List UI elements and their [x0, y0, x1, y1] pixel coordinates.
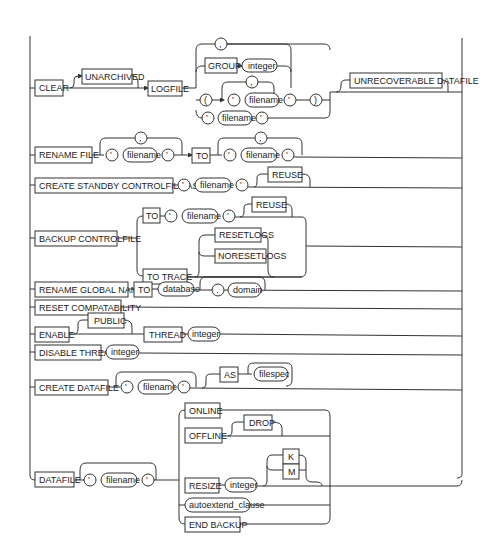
svg-text:GROUP: GROUP — [208, 61, 241, 71]
svg-text:TO: TO — [138, 285, 150, 295]
svg-text:K: K — [288, 452, 294, 462]
svg-text:': ' — [125, 382, 127, 392]
syntax-diagram: CLEAR UNARCHIVED LOGFILE , GROUP integer… — [0, 0, 488, 558]
svg-text:RESETLOGS: RESETLOGS — [219, 230, 274, 240]
svg-text:database: database — [163, 284, 200, 294]
svg-text:filename: filename — [143, 382, 177, 392]
rename-file-branch: RENAME FILE , ' filename ' TO , ' filena… — [30, 132, 462, 163]
svg-text:TO: TO — [146, 211, 158, 221]
left-rail — [30, 36, 35, 480]
svg-text:': ' — [182, 180, 184, 190]
svg-text:': ' — [110, 150, 112, 160]
clear-branch: CLEAR UNARCHIVED LOGFILE , GROUP integer… — [30, 38, 479, 125]
svg-text:': ' — [232, 95, 234, 105]
svg-text:(: ( — [204, 95, 207, 105]
svg-text:AS: AS — [224, 370, 236, 380]
svg-text:TO: TO — [196, 151, 208, 161]
svg-text:,: , — [139, 133, 142, 143]
svg-text:filename: filename — [127, 150, 161, 160]
svg-text:domain: domain — [233, 285, 263, 295]
svg-text:DISABLE THREAD: DISABLE THREAD — [39, 348, 117, 358]
datafile-branch: DATAFILE ' filename ' ONLINE OFFLINE DRO… — [35, 403, 462, 532]
svg-text:filename: filename — [106, 475, 140, 485]
svg-text:': ' — [146, 475, 148, 485]
svg-text:integer: integer — [111, 347, 139, 357]
svg-text:': ' — [240, 180, 242, 190]
svg-text:,: , — [259, 133, 262, 143]
svg-text:THREAD: THREAD — [149, 330, 187, 340]
create-standby-branch: CREATE STANDBY CONTROLFILE AS ' filename… — [30, 167, 462, 193]
svg-text:integer: integer — [192, 329, 220, 339]
svg-text:CREATE STANDBY CONTROLFILE AS: CREATE STANDBY CONTROLFILE AS — [39, 181, 199, 191]
svg-text:ENABLE: ENABLE — [39, 330, 75, 340]
svg-text:': ' — [260, 113, 262, 123]
svg-text:filename: filename — [187, 211, 221, 221]
svg-text:RENAME GLOBAL NAME: RENAME GLOBAL NAME — [39, 285, 144, 295]
svg-text:': ' — [206, 113, 208, 123]
svg-text:REUSE: REUSE — [256, 200, 287, 210]
svg-text:filename: filename — [249, 95, 283, 105]
svg-text:TO TRACE: TO TRACE — [147, 272, 192, 282]
right-rail — [457, 38, 462, 478]
svg-text:PUBLIC: PUBLIC — [94, 316, 127, 326]
svg-text:integer: integer — [248, 61, 276, 71]
disable-thread-branch: DISABLE THREAD integer — [30, 345, 462, 360]
svg-text:BACKUP CONTROLFILE: BACKUP CONTROLFILE — [39, 234, 141, 244]
svg-text:RESET COMPATABILITY: RESET COMPATABILITY — [39, 303, 141, 313]
svg-text:filespec: filespec — [259, 369, 290, 379]
create-datafile-branch: CREATE DATAFILE ' filename ' AS filespec — [30, 363, 462, 395]
svg-text:RENAME FILE: RENAME FILE — [39, 150, 99, 160]
svg-text:filename: filename — [222, 113, 256, 123]
svg-text:integer: integer — [230, 480, 258, 490]
svg-text:NORESETLOGS: NORESETLOGS — [218, 251, 287, 261]
svg-text:M: M — [288, 467, 296, 477]
svg-text:filename: filename — [246, 150, 280, 160]
svg-text:': ' — [169, 211, 171, 221]
svg-text:,: , — [250, 77, 253, 87]
svg-text:END BACKUP: END BACKUP — [189, 520, 248, 530]
svg-text:DROP: DROP — [249, 418, 275, 428]
svg-text:': ' — [182, 382, 184, 392]
svg-text:UNRECOVERABLE DATAFILE: UNRECOVERABLE DATAFILE — [354, 76, 479, 86]
backup-controlfile-branch: BACKUP CONTROLFILE TO ' filename ' REUSE… — [30, 197, 462, 284]
svg-text:': ' — [227, 211, 229, 221]
svg-text:,: , — [219, 39, 222, 49]
svg-text:CREATE DATAFILE: CREATE DATAFILE — [39, 383, 119, 393]
svg-text:': ' — [166, 150, 168, 160]
svg-text:': ' — [228, 150, 230, 160]
svg-text:OFFLINE: OFFLINE — [189, 431, 227, 441]
enable-branch: ENABLE PUBLIC THREAD integer — [30, 313, 462, 342]
svg-text:): ) — [314, 95, 317, 105]
rename-global-name-branch: RENAME GLOBAL NAME TO database . domain — [30, 277, 462, 297]
svg-text:ONLINE: ONLINE — [189, 406, 223, 416]
svg-text:REUSE: REUSE — [272, 170, 303, 180]
svg-text:': ' — [286, 150, 288, 160]
svg-text:.: . — [216, 285, 219, 295]
svg-text:': ' — [88, 475, 90, 485]
svg-text:RESIZE: RESIZE — [189, 481, 222, 491]
svg-text:': ' — [288, 95, 290, 105]
svg-text:LOGFILE: LOGFILE — [151, 84, 189, 94]
svg-text:filename: filename — [200, 180, 234, 190]
